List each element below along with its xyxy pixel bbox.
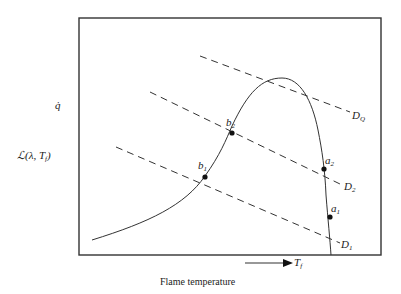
y-label-loss-close: ) [47,149,51,161]
label-b1: b1 [198,160,207,173]
label-b1-sub: 1 [204,165,208,173]
label-a1-sub: 1 [337,208,341,216]
temperature-arrow-head-icon [283,259,293,267]
y-label-loss-text: ℒ(λ, T [17,149,45,161]
y-label-qdot: q̇ [55,100,61,111]
y-label-loss: ℒ(λ, Tf) [17,150,51,163]
label-a2: a2 [325,155,334,168]
label-a1: a1 [331,203,340,216]
x-arrow-label-sub: f [300,262,302,270]
label-dq-sub: Q [360,115,365,123]
point-b1 [202,174,207,179]
label-a2-sub: 2 [331,160,335,168]
x-arrow-label: Tf [294,257,302,270]
x-axis-caption: Flame temperature [160,276,235,287]
label-d2-text: D [344,180,352,192]
label-dq-text: D [352,109,360,121]
plot-frame [79,18,381,255]
label-d2-sub: 2 [352,186,356,194]
heat-release-curve [92,78,331,255]
label-dq: DQ [352,110,365,123]
label-d1-sub: 1 [349,244,353,252]
line-dq [200,56,350,112]
label-b2: b2 [226,117,235,130]
label-d1: D1 [341,239,352,252]
label-d1-text: D [341,238,349,250]
line-d1 [116,147,340,243]
label-b2-sub: 2 [232,122,236,130]
label-d2: D2 [344,181,355,194]
point-b2 [229,130,234,135]
